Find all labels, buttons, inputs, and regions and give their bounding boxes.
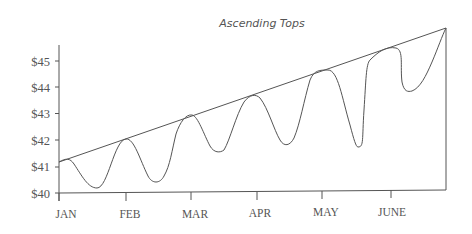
svg-text:FEB: FEB [119,208,140,220]
svg-text:$41: $41 [31,160,50,174]
svg-text:$42: $42 [31,134,50,148]
svg-text:$45: $45 [31,55,50,69]
y-ticks [55,61,59,193]
svg-text:MAY: MAY [313,206,339,218]
svg-text:MAR: MAR [182,208,209,220]
svg-text:JAN: JAN [55,208,77,220]
x-axis [59,190,446,193]
x-tick-labels: JAN FEB MAR APR MAY JUNE [55,206,406,220]
chart-title: Ascending Tops [218,17,305,30]
ascending-tops-chart: Ascending Tops $40 $41 $42 $43 $44 $45 J… [0,0,472,234]
svg-text:$44: $44 [31,81,51,95]
svg-text:APR: APR [249,207,272,219]
price-line [59,28,446,188]
svg-text:$43: $43 [31,107,50,121]
svg-text:$40: $40 [31,187,50,201]
svg-text:JUNE: JUNE [378,206,406,218]
y-tick-labels: $40 $41 $42 $43 $44 $45 [31,55,51,201]
